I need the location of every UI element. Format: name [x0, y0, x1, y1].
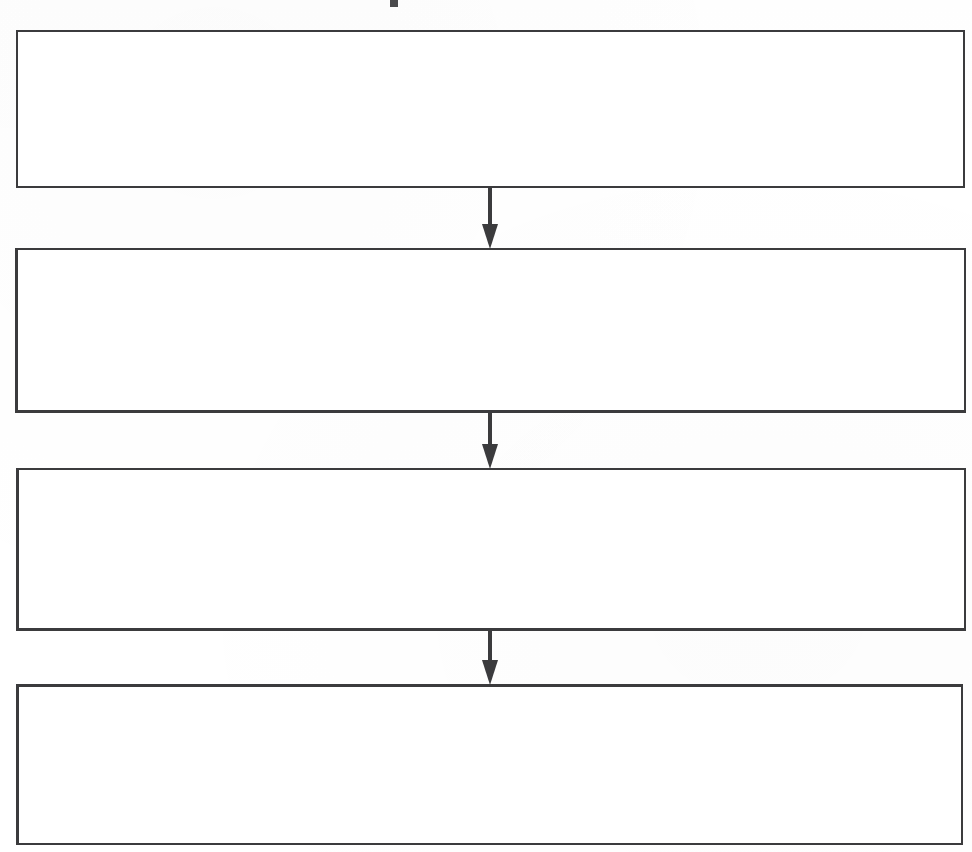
process-box-4[interactable] — [16, 684, 963, 845]
arrow-shaft — [488, 187, 492, 225]
process-box-1-label — [18, 32, 963, 186]
arrow-node1-to-node2 — [481, 187, 499, 249]
arrow-shaft — [488, 412, 492, 445]
arrow-node2-to-node3 — [481, 412, 499, 469]
arrow-node3-to-node4 — [481, 630, 499, 685]
arrow-head — [482, 444, 498, 469]
arrow-shaft — [488, 630, 492, 661]
process-box-3[interactable] — [16, 468, 966, 631]
arrow-head — [482, 660, 498, 685]
title-glyph-mark — [390, 0, 398, 7]
flowchart-canvas — [0, 0, 972, 852]
process-box-3-label — [19, 470, 964, 628]
process-box-2[interactable] — [15, 248, 966, 413]
clipped-title-glyph — [390, 0, 398, 7]
process-box-2-label — [18, 250, 964, 410]
arrow-head — [482, 224, 498, 249]
process-box-4-label — [19, 687, 961, 843]
process-box-1[interactable] — [16, 30, 965, 188]
